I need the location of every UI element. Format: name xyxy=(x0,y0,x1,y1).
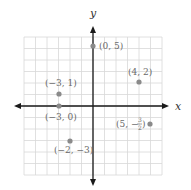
y-axis-down-arrow-icon xyxy=(90,179,96,186)
coordinate-plane: x y (0, 5) (4, 2) (−3, 1) (−3, 0) (−2, −… xyxy=(0,0,191,190)
x-axis-label: x xyxy=(175,100,182,113)
point-0-5: (0, 5) xyxy=(90,41,123,51)
point-marker xyxy=(90,43,95,48)
point-label-suffix: ) xyxy=(142,119,146,129)
x-axis-left-arrow-icon xyxy=(14,103,21,109)
y-axis-label: y xyxy=(89,7,97,20)
point-marker xyxy=(56,103,61,108)
point-label: (4, 2) xyxy=(128,67,152,77)
y-axis: y xyxy=(89,7,97,186)
point-4-2: (4, 2) xyxy=(128,67,152,85)
point-neg3-1: (−3, 1) xyxy=(45,78,77,97)
x-axis: x xyxy=(14,100,182,113)
point-label: (−3, 0) xyxy=(45,112,77,122)
point-marker xyxy=(136,79,141,84)
point-label: (−3, 1) xyxy=(45,78,77,88)
x-axis-right-arrow-icon xyxy=(162,103,169,109)
point-label-prefix: (5, − xyxy=(116,119,139,129)
y-axis-up-arrow-icon xyxy=(90,26,96,33)
point-label: (0, 5) xyxy=(99,41,123,51)
point-marker xyxy=(147,121,152,126)
point-label: (−2, −3) xyxy=(54,145,93,155)
point-marker xyxy=(56,91,61,96)
point-marker xyxy=(67,138,72,143)
